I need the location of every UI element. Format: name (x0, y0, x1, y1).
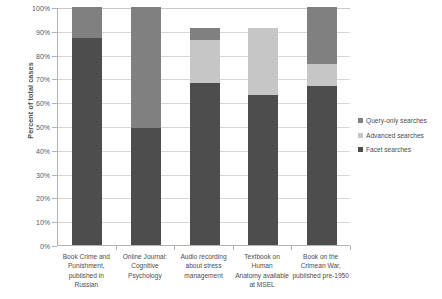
x-axis-label: Book Crime andPunishment,published in Ru… (57, 252, 116, 290)
x-axis-label-line: Book on the (291, 252, 350, 261)
x-tick-mark (116, 246, 117, 250)
y-tick-label: 100% (10, 5, 50, 12)
bar-stack[interactable] (307, 7, 337, 245)
x-tick-mark (350, 246, 351, 250)
legend-item[interactable]: Query-only searches (358, 117, 442, 124)
legend-label: Advanced searches (366, 132, 424, 139)
bar-segment-query-only-searches[interactable] (72, 7, 102, 38)
legend-label: Facet searches (366, 146, 411, 153)
bar-segment-query-only-searches[interactable] (307, 7, 337, 64)
y-tick-label: 20% (10, 195, 50, 202)
x-axis-label-line: Online Journal: (116, 252, 175, 261)
bar-stack[interactable] (131, 7, 161, 245)
bar-stack[interactable] (248, 28, 278, 245)
x-axis-label-line: Audio recording (174, 252, 233, 261)
x-axis-label-line: Textbook on Human (233, 252, 292, 271)
x-axis-label-line: Book Crime and (57, 252, 116, 261)
x-axis-label-line: Cognitive (116, 261, 175, 270)
y-tick-label: 70% (10, 76, 50, 83)
x-tick-mark (174, 246, 175, 250)
x-axis-label: Book on theCrimean War,published pre-195… (291, 252, 350, 280)
bar-group[interactable] (131, 8, 161, 245)
x-axis-label-line: Punishment, (57, 261, 116, 270)
bar-group[interactable] (190, 8, 220, 245)
x-axis-label: Textbook on HumanAnatomy availableat MSE… (233, 252, 292, 290)
bar-segment-facet-searches[interactable] (307, 86, 337, 245)
x-tick-mark (291, 246, 292, 250)
y-tick-label: 40% (10, 147, 50, 154)
bar-segment-query-only-searches[interactable] (131, 7, 161, 128)
stacked-bar-chart: Percent of total cases 0%10%20%30%40%50%… (0, 0, 442, 299)
bar-segment-facet-searches[interactable] (190, 83, 220, 245)
y-tick-label: 50% (10, 124, 50, 131)
y-tick-label: 0% (10, 243, 50, 250)
bar-segment-query-only-searches[interactable] (190, 28, 220, 40)
bar-segment-advanced-searches[interactable] (248, 28, 278, 95)
x-axis-label: Online Journal:CognitivePsychology (116, 252, 175, 280)
x-axis-label-line: published pre-1950 (291, 271, 350, 280)
y-tick-label: 80% (10, 52, 50, 59)
x-axis-label-line: Psychology (116, 271, 175, 280)
bar-stack[interactable] (190, 28, 220, 245)
x-axis-label: Audio recordingabout stressmanagement (174, 252, 233, 280)
bar-segment-advanced-searches[interactable] (190, 40, 220, 83)
x-axis-label-line: management (174, 271, 233, 280)
y-tick-mark (52, 246, 57, 247)
legend-item[interactable]: Facet searches (358, 146, 442, 153)
bar-segment-facet-searches[interactable] (131, 128, 161, 245)
legend-label: Query-only searches (366, 117, 427, 124)
bar-segment-advanced-searches[interactable] (307, 64, 337, 85)
bar-group[interactable] (248, 8, 278, 245)
bar-group[interactable] (72, 8, 102, 245)
y-tick-label: 10% (10, 219, 50, 226)
x-axis-label-line: Crimean War, (291, 261, 350, 270)
y-tick-label: 90% (10, 28, 50, 35)
legend-swatch-icon (358, 133, 363, 138)
bar-segment-facet-searches[interactable] (248, 95, 278, 245)
bar-group[interactable] (307, 8, 337, 245)
chart-legend: Query-only searchesAdvanced searchesFace… (358, 117, 442, 161)
legend-swatch-icon (358, 118, 363, 123)
legend-swatch-icon (358, 147, 363, 152)
x-axis-label-line: published in Russian (57, 271, 116, 290)
y-tick-label: 30% (10, 171, 50, 178)
x-tick-mark (233, 246, 234, 250)
bar-segment-facet-searches[interactable] (72, 38, 102, 245)
x-axis-label-line: about stress (174, 261, 233, 270)
bar-stack[interactable] (72, 7, 102, 245)
y-tick-label: 60% (10, 100, 50, 107)
x-axis-label-line: Anatomy available (233, 271, 292, 280)
plot-area (57, 8, 350, 246)
x-axis-label-line: at MSEL (233, 280, 292, 289)
legend-item[interactable]: Advanced searches (358, 132, 442, 139)
